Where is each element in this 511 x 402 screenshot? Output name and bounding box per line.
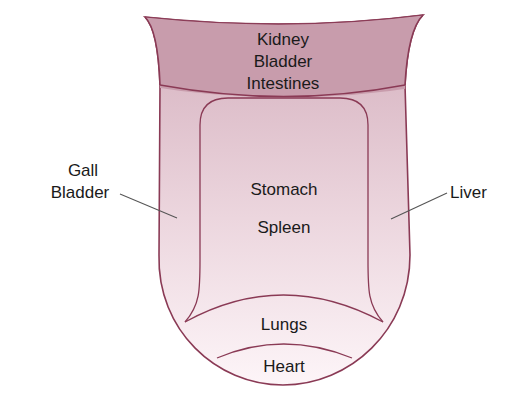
front-label: Lungs xyxy=(261,315,307,334)
center-label-line-2: Spleen xyxy=(258,218,311,237)
left-side-label-line-1: Gall xyxy=(68,161,98,180)
center-label-line-1: Stomach xyxy=(250,180,317,199)
root-label: Kidney Bladder Intestines xyxy=(247,30,320,93)
tip-label: Heart xyxy=(263,357,305,376)
root-label-line-1: Kidney xyxy=(257,30,309,49)
tongue-diagram: Kidney Bladder Intestines Stomach Spleen… xyxy=(0,0,511,402)
root-label-line-2: Bladder xyxy=(254,52,313,71)
left-side-label: Gall Bladder xyxy=(51,161,110,202)
right-side-label: Liver xyxy=(450,183,487,202)
root-label-line-3: Intestines xyxy=(247,74,320,93)
left-side-label-line-2: Bladder xyxy=(51,183,110,202)
